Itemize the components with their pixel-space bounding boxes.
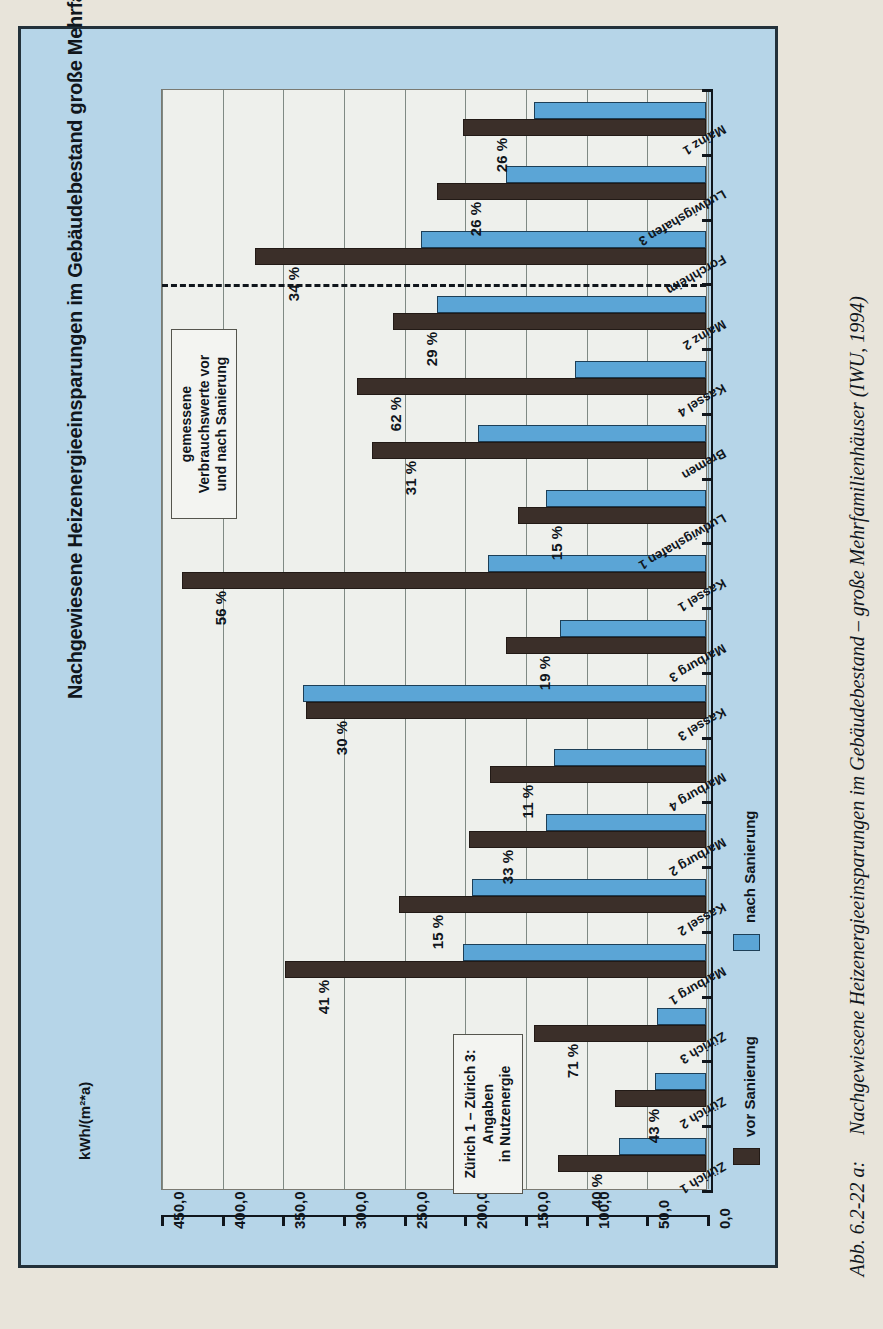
bar-nach-sanierung[interactable]	[554, 749, 706, 766]
axis-tick	[404, 1215, 407, 1226]
measured-values-note: gemesseneVerbrauchswerte vorund nach San…	[178, 355, 231, 494]
bar-nach-sanierung[interactable]	[303, 685, 706, 702]
category-tick	[702, 737, 713, 740]
axis-tick	[161, 1215, 164, 1226]
category-tick	[702, 89, 713, 92]
annotation-line: gemessene	[178, 355, 196, 494]
bar-vor-sanierung[interactable]	[285, 961, 706, 978]
gridline	[708, 90, 709, 1189]
bar-group[interactable]: 29 %	[162, 284, 706, 349]
bar-vor-sanierung[interactable]	[437, 183, 706, 200]
category-tick	[702, 996, 713, 999]
bar-vor-sanierung[interactable]	[518, 507, 706, 524]
category-tick	[702, 931, 713, 934]
bar-nach-sanierung[interactable]	[560, 620, 706, 637]
bar-group[interactable]: 15 %	[162, 867, 706, 932]
bar-vor-sanierung[interactable]	[490, 766, 706, 783]
bar-nach-sanierung[interactable]	[546, 490, 706, 507]
bar-group[interactable]: 40 %	[162, 1126, 706, 1191]
bar-value-label: 56 %	[212, 591, 229, 625]
bar-vor-sanierung[interactable]	[399, 896, 706, 913]
bar-value-label: 41 %	[315, 980, 332, 1014]
bar-value-label: 15 %	[429, 915, 446, 949]
annotation-line: Verbrauchswerte vor	[195, 355, 213, 494]
bar-nach-sanierung[interactable]	[488, 555, 706, 572]
bar-vor-sanierung[interactable]	[357, 378, 706, 395]
bar-value-label: 19 %	[536, 656, 553, 690]
bar-value-label: 30 %	[333, 721, 350, 755]
category-tick	[702, 672, 713, 675]
bar-vor-sanierung[interactable]	[469, 831, 706, 848]
bar-vor-sanierung[interactable]	[306, 702, 706, 719]
bar-nach-sanierung[interactable]	[534, 102, 706, 119]
bar-value-label: 26 %	[494, 138, 511, 172]
bar-nach-sanierung[interactable]	[657, 1008, 706, 1025]
bar-group[interactable]: 34 %	[162, 220, 706, 285]
bar-group[interactable]: 33 %	[162, 802, 706, 867]
bar-group[interactable]: 19 %	[162, 608, 706, 673]
bar-value-label: 33 %	[500, 850, 517, 884]
axis-tick-label: 0,0	[716, 1208, 733, 1229]
bar-value-label: 26 %	[467, 202, 484, 236]
axis-tick	[464, 1215, 467, 1226]
category-tick	[702, 1125, 713, 1128]
bar-nach-sanierung[interactable]	[619, 1138, 706, 1155]
callout-measured-values: gemesseneVerbrauchswerte vorund nach San…	[171, 329, 237, 519]
bar-nach-sanierung[interactable]	[463, 944, 706, 961]
annotation-line: Angaben	[479, 1049, 497, 1178]
bar-vor-sanierung[interactable]	[182, 572, 706, 589]
axis-tick	[707, 1215, 710, 1226]
bar-value-label: 62 %	[387, 397, 404, 431]
category-tick	[702, 283, 713, 286]
bar-group[interactable]: 56 %	[162, 543, 706, 608]
bar-nach-sanierung[interactable]	[546, 814, 706, 831]
legend-label-vor-sanierung: vor Sanierung	[741, 1036, 758, 1137]
category-tick	[702, 219, 713, 222]
axis-tick	[222, 1215, 225, 1226]
bar-value-label: 71 %	[564, 1044, 581, 1078]
bar-group[interactable]: 71 %	[162, 997, 706, 1062]
bar-nach-sanierung[interactable]	[506, 166, 706, 183]
annotation-line: Zürich 1 – Zürich 3:	[462, 1049, 480, 1178]
axis-tick-label: 350,0	[291, 1191, 308, 1229]
bar-vor-sanierung[interactable]	[372, 442, 706, 459]
bar-group[interactable]: 30 %	[162, 673, 706, 738]
bar-nach-sanierung[interactable]	[437, 296, 706, 313]
category-tick	[702, 478, 713, 481]
bar-group[interactable]: 15 %	[162, 479, 706, 544]
axis-tick-label: 450,0	[170, 1191, 187, 1229]
axis-tick	[282, 1215, 285, 1226]
bar-vor-sanierung[interactable]	[534, 1025, 706, 1042]
separator-line	[162, 284, 706, 287]
value-axis: 450,0400,0350,0300,0250,0200,0150,0100,0…	[161, 1215, 707, 1217]
bar-group[interactable]: 43 %	[162, 1061, 706, 1126]
zurich-note: Zürich 1 – Zürich 3:Angabenin Nutzenergi…	[462, 1049, 515, 1178]
axis-tick	[343, 1215, 346, 1226]
bar-group[interactable]: 26 %	[162, 155, 706, 220]
bar-nach-sanierung[interactable]	[575, 361, 706, 378]
bar-group[interactable]: 31 %	[162, 414, 706, 479]
callout-zurich-note: Zürich 1 – Zürich 3:Angabenin Nutzenergi…	[453, 1034, 523, 1194]
bar-vor-sanierung[interactable]	[463, 119, 706, 136]
bar-value-label: 43 %	[645, 1109, 662, 1143]
axis-tick-label: 50,0	[655, 1200, 672, 1229]
bar-value-label: 11 %	[519, 785, 536, 818]
bar-vor-sanierung[interactable]	[393, 313, 706, 330]
caption-body: Nachgewiesene Heizenergieeinsparungen im…	[846, 296, 868, 1135]
page-background: Nachgewiesene Heizenergieeinsparungen im…	[0, 0, 883, 1329]
axis-tick-label: 100,0	[595, 1191, 612, 1229]
legend-swatch-nach-sanierung	[733, 934, 760, 951]
bar-group[interactable]: 11 %	[162, 738, 706, 803]
bar-nach-sanierung[interactable]	[655, 1073, 706, 1090]
bar-vor-sanierung[interactable]	[255, 248, 706, 265]
bar-vor-sanierung[interactable]	[558, 1155, 706, 1172]
bar-vor-sanierung[interactable]	[615, 1090, 706, 1107]
page-title: Nachgewiesene Heizenergieeinsparungen im…	[65, 59, 85, 699]
bar-group[interactable]: 26 %	[162, 90, 706, 155]
bar-vor-sanierung[interactable]	[506, 637, 706, 654]
figure-panel: Nachgewiesene Heizenergieeinsparungen im…	[18, 26, 778, 1268]
axis-tick-label: 400,0	[231, 1191, 248, 1229]
axis-tick-label: 150,0	[534, 1191, 551, 1229]
category-tick	[702, 801, 713, 804]
bar-nach-sanierung[interactable]	[478, 425, 706, 442]
